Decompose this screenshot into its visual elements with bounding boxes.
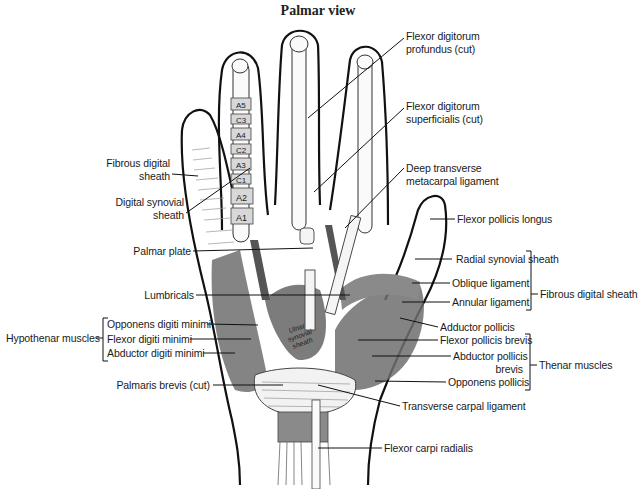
label-flexor-digitorum-profundus: Flexor digitorumprofundus (cut) bbox=[406, 30, 480, 55]
label-fibrous-digital-sheath: Fibrous digitalsheath bbox=[90, 157, 170, 182]
pulley-a2: A2 bbox=[236, 192, 247, 205]
label-annular-ligament: Annular ligament bbox=[452, 296, 529, 309]
label-palmar-plate: Palmar plate bbox=[111, 245, 191, 258]
label-deep-transverse-metacarpal-ligament: Deep transversemetacarpal ligament bbox=[406, 162, 499, 187]
pulley-a3: A3 bbox=[236, 160, 246, 173]
pulley-a1: A1 bbox=[236, 212, 247, 225]
label-flexor-digiti-minimi: Flexor digiti minimi bbox=[107, 333, 192, 346]
label-abductor-pollicis-brevis: Abductor pollicisbrevis bbox=[453, 350, 523, 375]
label-opponens-digiti-minimi: Opponens digiti minimi bbox=[107, 318, 211, 331]
label-oblique-ligament: Oblique ligament bbox=[452, 277, 529, 290]
wrist-structures bbox=[254, 368, 356, 489]
label-lumbricals: Lumbricals bbox=[114, 289, 194, 302]
pulley-c1: C1 bbox=[236, 175, 246, 188]
label-hypothenar-muscles: Hypothenar muscles bbox=[6, 332, 100, 345]
label-digital-synovial-sheath: Digital synovialsheath bbox=[100, 196, 184, 221]
label-thenar-muscles: Thenar muscles bbox=[539, 359, 612, 372]
label-fibrous-digital-sheath-group: Fibrous digital sheath bbox=[540, 288, 638, 301]
pulley-c3: C3 bbox=[236, 115, 246, 128]
pulley-a5: A5 bbox=[236, 100, 246, 113]
label-transverse-carpal-ligament: Transverse carpal ligament bbox=[402, 400, 526, 413]
label-flexor-pollicis-longus: Flexor pollicis longus bbox=[457, 213, 552, 226]
label-abductor-digiti-minimi: Abductor digiti minimi bbox=[107, 347, 205, 360]
label-adductor-pollicis: Adductor pollicis bbox=[440, 321, 515, 334]
label-flexor-digitorum-superficialis: Flexor digitorumsuperficialis (cut) bbox=[406, 100, 483, 125]
pulley-c2: C2 bbox=[236, 145, 246, 158]
label-opponens-pollicis: Opponens pollicis bbox=[448, 376, 529, 389]
label-palmaris-brevis: Palmaris brevis (cut) bbox=[100, 379, 210, 392]
label-flexor-pollicis-brevis: Flexor pollicis brevis bbox=[440, 334, 532, 347]
label-radial-synovial-sheath: Radial synovial sheath bbox=[456, 253, 559, 266]
label-flexor-carpi-radialis: Flexor carpi radialis bbox=[384, 442, 473, 455]
little-finger-sheath bbox=[192, 148, 234, 244]
pulley-a4: A4 bbox=[236, 130, 246, 143]
